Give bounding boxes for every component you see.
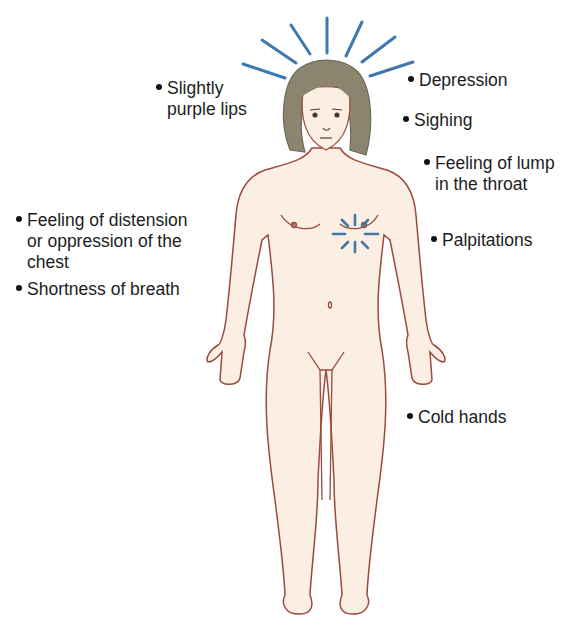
face <box>302 87 350 150</box>
label-palpitations: Palpitations <box>431 230 532 251</box>
label-shortness-breath: Shortness of breath <box>16 279 180 300</box>
bullet-icon <box>16 216 22 222</box>
label-cold-hands: Cold hands <box>407 407 507 428</box>
bullet-icon <box>403 116 409 122</box>
label-depression: Depression <box>408 70 508 91</box>
bullet-icon <box>408 76 414 82</box>
bullet-icon <box>16 285 22 291</box>
label-purple-lips: Slightly purple lips <box>156 78 247 120</box>
body <box>207 148 445 614</box>
human-figure-illustration <box>0 0 584 642</box>
label-sighing: Sighing <box>403 110 472 131</box>
bullet-icon <box>407 413 413 419</box>
bullet-icon <box>156 84 162 90</box>
bullet-icon <box>431 236 437 242</box>
label-lump-throat: Feeling of lump in the throat <box>424 153 555 195</box>
bullet-icon <box>424 159 430 165</box>
label-chest-distension: Feeling of distension or oppression of t… <box>16 210 188 273</box>
